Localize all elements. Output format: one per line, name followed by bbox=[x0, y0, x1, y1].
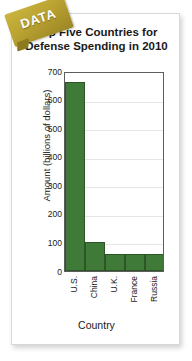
plot-area bbox=[64, 72, 164, 272]
x-tick-label: Russia bbox=[149, 276, 159, 320]
data-badge-label: DATA bbox=[6, 1, 70, 35]
bar-u-k bbox=[105, 254, 125, 271]
x-tick: China bbox=[84, 273, 104, 317]
y-tick-label: 600 bbox=[36, 96, 62, 105]
y-tick-label: 0 bbox=[36, 268, 62, 277]
x-axis-ticks: U.S.ChinaU.K.FranceRussia bbox=[64, 273, 164, 317]
y-tick-label: 200 bbox=[36, 210, 62, 219]
x-tick-label: China bbox=[89, 276, 99, 320]
y-tick-label: 400 bbox=[36, 153, 62, 162]
x-tick: U.S. bbox=[64, 273, 84, 317]
y-axis-ticks: 7006005004003002001000 bbox=[34, 72, 62, 272]
bar-russia bbox=[145, 254, 164, 271]
bar-u-s bbox=[65, 82, 85, 271]
y-tick-label: 500 bbox=[36, 125, 62, 134]
y-tick-label: 100 bbox=[36, 239, 62, 248]
bar-china bbox=[85, 242, 105, 271]
x-tick-label: U.K. bbox=[109, 276, 119, 320]
x-tick-label: France bbox=[129, 276, 139, 320]
x-tick: Russia bbox=[144, 273, 164, 317]
bar-france bbox=[125, 254, 145, 271]
chart-card: DATA Top Five Countries for Defense Spen… bbox=[11, 13, 180, 345]
y-tick-label: 300 bbox=[36, 182, 62, 191]
x-tick-label: U.S. bbox=[69, 276, 79, 320]
x-axis-title: Country bbox=[18, 319, 175, 331]
y-tick-label: 700 bbox=[36, 68, 62, 77]
chart-title-line-2: Defense Spending in 2010 bbox=[18, 40, 175, 54]
x-tick: France bbox=[124, 273, 144, 317]
x-tick: U.K. bbox=[104, 273, 124, 317]
